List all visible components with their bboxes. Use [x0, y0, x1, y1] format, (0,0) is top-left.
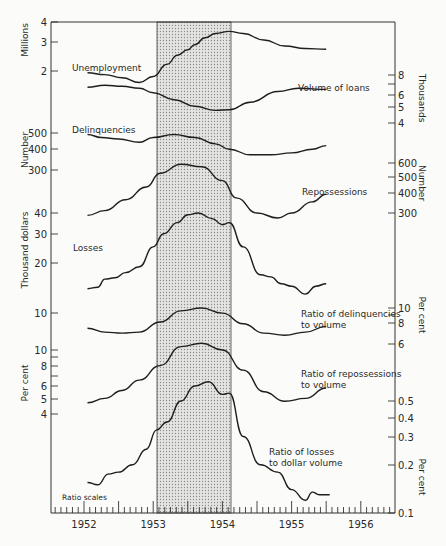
left-tick-label: 8 — [41, 361, 47, 372]
right-tick-label: 600 — [398, 158, 417, 169]
x-tick-label: 1956 — [348, 519, 373, 530]
right-unit-number: Number — [417, 165, 427, 201]
left-tick-label: 20 — [34, 258, 47, 269]
right-tick-label: 0.3 — [398, 432, 414, 443]
right-tick-label: 500 — [398, 172, 417, 183]
label-delinquencies: Delinquencies — [72, 125, 136, 135]
right-tick-label: 0.5 — [398, 396, 414, 407]
left-unit-millions: Millions — [20, 23, 30, 57]
left-tick-label: 400 — [28, 144, 47, 155]
label-ratio-repossessions-line1: Ratio of repossessions — [301, 369, 402, 379]
left-unit-thousand-dollars: Thousand dollars — [20, 211, 30, 289]
label-ratio-repossessions-line2: to volume — [301, 380, 347, 390]
right-tick-label: 4 — [398, 118, 404, 129]
left-tick-label: 6 — [41, 381, 47, 392]
left-axes: 43250040030040302010108654 — [28, 17, 58, 420]
left-tick-label: 4 — [41, 409, 47, 420]
left-tick-label: 40 — [34, 208, 47, 219]
x-tick-label: 1953 — [140, 519, 165, 530]
label-repossessions: Repossessions — [302, 187, 368, 197]
left-tick-label: 10 — [34, 308, 47, 319]
chart-canvas: 19521953195419551956 4325004003004030201… — [0, 0, 446, 546]
left-tick-label: 30 — [34, 229, 47, 240]
right-tick-label: 6 — [398, 90, 404, 101]
right-unit-percent-b: Per cent — [417, 459, 427, 496]
left-tick-label: 5 — [41, 394, 47, 405]
right-tick-label: 5 — [398, 102, 404, 113]
left-tick-label: 500 — [28, 128, 47, 139]
left-tick-label: 2 — [41, 66, 47, 77]
label-ratio-delinquencies-line1: Ratio of delinquencies — [301, 309, 401, 319]
x-axis-ticks — [55, 501, 389, 513]
label-ratio-repossessions: Ratio of repossessions to volume — [301, 369, 404, 390]
left-tick-label: 3 — [41, 37, 47, 48]
x-tick-label: 1952 — [71, 519, 96, 530]
label-ratio-losses: Ratio of losses to dollar volume — [269, 447, 343, 468]
left-unit-percent: Per cent — [20, 364, 30, 401]
right-axes: 865460050040030010860.50.40.30.20.1 — [388, 70, 417, 519]
left-unit-number: Number — [20, 132, 30, 168]
left-tick-label: 10 — [34, 345, 47, 356]
label-losses: Losses — [73, 243, 103, 253]
right-tick-label: 0.1 — [398, 508, 414, 519]
label-ratio-delinquencies: Ratio of delinquencies to volume — [301, 309, 404, 330]
right-tick-label: 0.2 — [398, 460, 414, 471]
ratio-scales-note: Ratio scales — [62, 493, 107, 502]
label-volume-of-loans: Volume of loans — [298, 83, 370, 93]
right-unit-percent-a: Per cent — [417, 297, 427, 334]
right-tick-label: 400 — [398, 188, 417, 199]
right-unit-thousands: Thousands — [417, 73, 427, 123]
label-ratio-delinquencies-line2: to volume — [301, 320, 347, 330]
shaded-period — [157, 22, 231, 513]
right-tick-label: 0.4 — [398, 413, 414, 424]
right-tick-label: 300 — [398, 208, 417, 219]
right-tick-label: 6 — [398, 339, 404, 350]
label-ratio-losses-line2: to dollar volume — [269, 458, 343, 468]
x-tick-label: 1954 — [210, 519, 235, 530]
label-unemployment: Unemployment — [72, 63, 142, 73]
right-tick-label: 8 — [398, 70, 404, 81]
left-tick-label: 300 — [28, 165, 47, 176]
x-tick-label: 1955 — [279, 519, 304, 530]
label-ratio-losses-line1: Ratio of losses — [269, 447, 334, 457]
x-axis-labels: 19521953195419551956 — [71, 519, 373, 530]
right-tick-label: 8 — [398, 318, 404, 329]
left-tick-label: 4 — [41, 17, 47, 28]
